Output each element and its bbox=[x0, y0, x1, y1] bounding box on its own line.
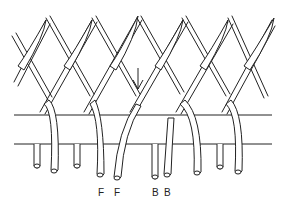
arrow-down-icon bbox=[133, 68, 143, 89]
mesh bbox=[12, 16, 275, 114]
mesh-strands-down-right bbox=[12, 16, 268, 100]
hanging-wires bbox=[34, 100, 242, 180]
mesh-strands-up-right bbox=[14, 18, 275, 114]
wire-front-1 bbox=[44, 100, 58, 173]
wire-mesh-diagram bbox=[0, 0, 287, 211]
wire-back-3 bbox=[152, 144, 158, 179]
label-b-2: B bbox=[164, 188, 171, 198]
wire-ends bbox=[34, 164, 241, 180]
label-b-1: B bbox=[152, 188, 159, 198]
wire-front-4 bbox=[164, 118, 174, 177]
label-f-2: F bbox=[114, 188, 120, 198]
wire-front-2 bbox=[90, 100, 104, 177]
label-f-1: F bbox=[98, 188, 104, 198]
